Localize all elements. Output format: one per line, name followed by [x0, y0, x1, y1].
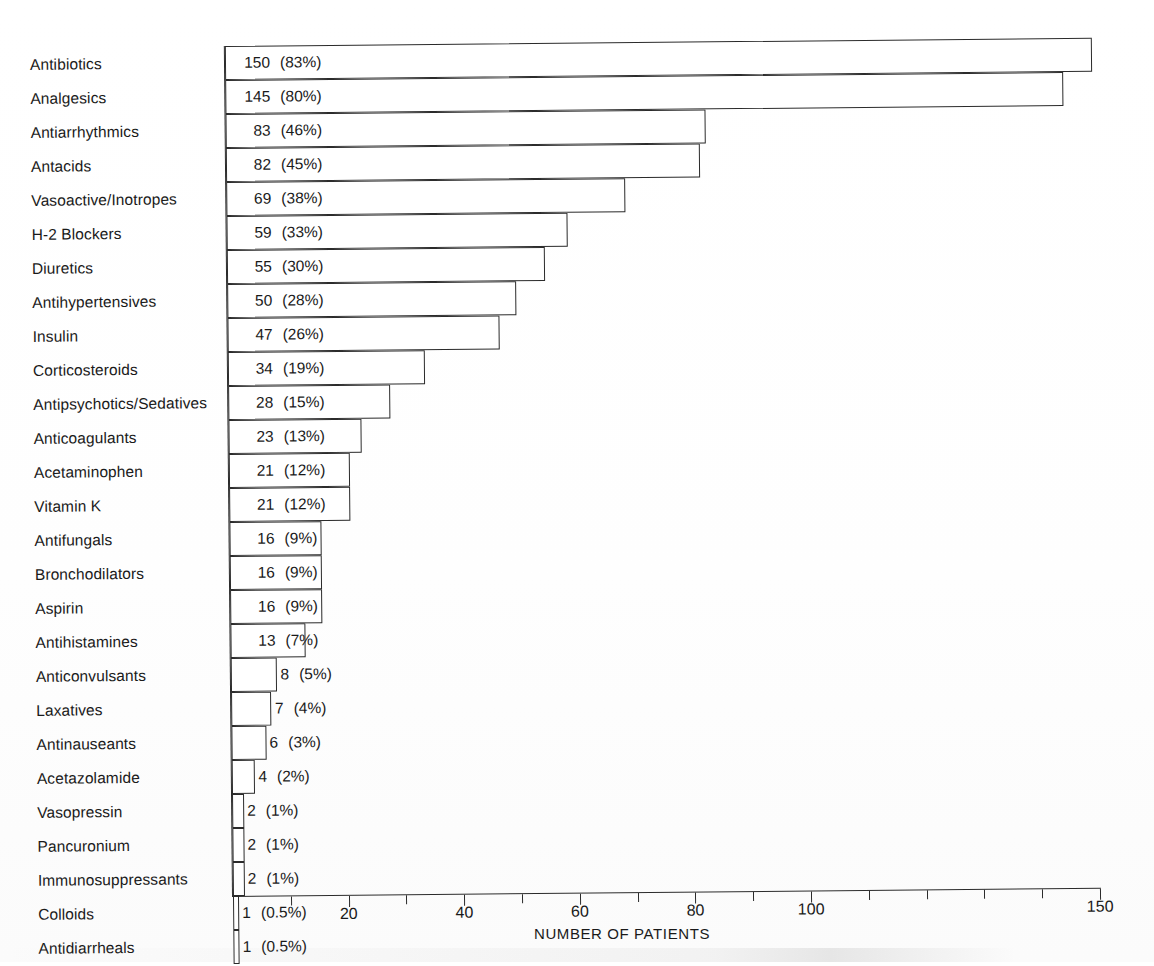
- x-axis-tick: [638, 893, 639, 902]
- bar-percent-label: (12%): [284, 453, 326, 487]
- bar-percent-label: (83%): [280, 45, 322, 79]
- bar-value-label: 83: [230, 114, 270, 148]
- category-label: Corticosteroids: [33, 352, 217, 388]
- category-label: Antinauseants: [36, 726, 220, 762]
- bar-percent-label: (15%): [283, 385, 325, 419]
- x-axis-tick: [406, 895, 407, 904]
- bar-value-label: 55: [232, 250, 272, 284]
- bar-value-label: 2: [216, 794, 256, 828]
- bar-percent-label: (7%): [285, 623, 318, 657]
- category-label: Anticoagulants: [33, 420, 217, 456]
- category-label: Antibiotics: [30, 46, 214, 82]
- bar-value-label: 16: [234, 522, 274, 556]
- bar-value-label: 2: [216, 862, 256, 896]
- bar-value-label: 82: [231, 148, 271, 182]
- bar-percent-label: (46%): [280, 113, 322, 147]
- bar-value-label: 47: [232, 318, 272, 352]
- bar-value-label: 6: [238, 726, 278, 760]
- x-axis-tick: [927, 890, 928, 899]
- bar-percent-label: (26%): [282, 317, 324, 351]
- bar-value-label: 7: [243, 692, 283, 726]
- bar-value-label: 8: [249, 657, 289, 691]
- category-label: Antacids: [31, 148, 215, 184]
- category-label: H-2 Blockers: [31, 216, 215, 252]
- bar-value-label: 16: [235, 590, 275, 624]
- x-axis-tick-label: 100: [798, 900, 825, 918]
- category-label: Bronchodilators: [35, 556, 219, 592]
- bar-percent-label: (38%): [281, 181, 323, 215]
- bar-percent-label: (45%): [281, 147, 323, 181]
- category-label: Pancuronium: [37, 828, 221, 864]
- bar: [227, 247, 545, 284]
- x-axis-tick-label: 20: [340, 905, 358, 923]
- bar-percent-label: (12%): [284, 487, 326, 521]
- category-label: Diuretics: [32, 250, 216, 286]
- bar-percent-label: (5%): [299, 657, 332, 691]
- bar-percent-label: (2%): [277, 759, 310, 793]
- category-label: Anticonvulsants: [36, 658, 220, 694]
- bar: [226, 213, 567, 250]
- x-axis-ticks-container: 20406080100150: [0, 0, 1145, 2]
- x-axis-tick: [522, 894, 523, 903]
- x-axis-tick-label: 40: [455, 904, 473, 922]
- category-label: Immunosuppressants: [38, 862, 222, 898]
- bar-percent-label: (19%): [283, 351, 325, 385]
- category-label: Vitamin K: [34, 488, 218, 524]
- scan-artifact: [0, 948, 1154, 962]
- bar-value-label: 16: [235, 556, 275, 590]
- bar-percent-label: (30%): [282, 249, 324, 283]
- bar-percent-label: (1%): [266, 793, 299, 827]
- bar-percent-label: (13%): [283, 419, 325, 453]
- bar-percent-label: (80%): [280, 79, 322, 113]
- bar-percent-label: (9%): [284, 521, 317, 555]
- x-axis-tick: [869, 891, 870, 900]
- category-label: Analgesics: [30, 80, 214, 116]
- x-axis-tick: [291, 896, 292, 905]
- category-label: Antihypertensives: [32, 284, 216, 320]
- bar-value-label: 21: [234, 454, 274, 488]
- category-label: Laxatives: [36, 692, 220, 728]
- category-label: Antihistamines: [35, 624, 219, 660]
- category-label: Vasoactive/Inotropes: [31, 182, 215, 218]
- bar-value-label: 4: [227, 760, 267, 794]
- bar-percent-label: (28%): [282, 283, 324, 317]
- x-axis-tick: [753, 892, 754, 901]
- x-axis-title-text: NUMBER OF PATIENTS: [534, 925, 710, 942]
- bar-percent-label: (1%): [266, 827, 299, 861]
- category-label: Insulin: [32, 318, 216, 354]
- x-axis-title: NUMBER OF PATIENTS: [0, 925, 1154, 942]
- category-label: Vasopressin: [37, 794, 221, 830]
- x-axis-tick-label: 80: [687, 901, 705, 919]
- bar-value-label: 145: [230, 80, 270, 114]
- category-label: Antiarrhythmics: [30, 114, 214, 150]
- plot-area: Antibiotics150(83%)Analgesics145(80%)Ant…: [0, 0, 1154, 964]
- category-label: Acetazolamide: [37, 760, 221, 796]
- bar-value-label: 150: [230, 46, 270, 80]
- bar-percent-label: (9%): [285, 589, 318, 623]
- category-label: Antifungals: [34, 522, 218, 558]
- bar-value-label: 34: [233, 352, 273, 386]
- bar-percent-label: (9%): [285, 555, 318, 589]
- bar-rows-container: Antibiotics150(83%)Analgesics145(80%)Ant…: [0, 0, 1145, 2]
- x-axis-tick: [984, 890, 985, 899]
- bar-value-label: 50: [232, 284, 272, 318]
- category-label: Acetaminophen: [34, 454, 218, 490]
- category-label: Antipsychotics/Sedatives: [33, 386, 217, 422]
- bar-percent-label: (4%): [293, 691, 326, 725]
- bar-value-label: 2: [216, 828, 256, 862]
- x-axis-tick-label: 60: [571, 903, 589, 921]
- bar-value-label: 21: [234, 488, 274, 522]
- bar-value-label: 59: [231, 216, 271, 250]
- bar-value-label: 13: [235, 624, 275, 658]
- category-label: Aspirin: [35, 590, 219, 626]
- bar-value-label: 69: [231, 182, 271, 216]
- bar-value-label: 23: [233, 420, 273, 454]
- bar-percent-label: (1%): [266, 861, 299, 895]
- x-axis-tick-label: 150: [1087, 898, 1114, 916]
- bar-percent-label: (33%): [281, 215, 323, 249]
- x-axis-tick: [1042, 889, 1043, 898]
- bar-percent-label: (3%): [288, 725, 321, 759]
- bar-value-label: 28: [233, 386, 273, 420]
